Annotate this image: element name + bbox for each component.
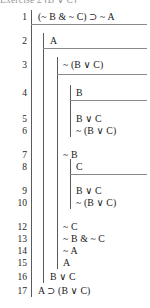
proof-line-formula: B ∨ C — [76, 186, 102, 196]
proof-line-formula: A — [63, 258, 70, 268]
proof-line-formula: ~ C — [63, 222, 78, 232]
proof-line-formula: B — [76, 88, 83, 98]
proof-line-formula: B ∨ C — [76, 114, 102, 124]
proof-line-formula: ~ (B ∨ C) — [63, 60, 103, 70]
rule-under-line-8 — [70, 174, 147, 175]
scope-bar-assumption-notBvC-scope — [57, 57, 58, 269]
line-number: 7 — [0, 150, 27, 160]
scope-bar-outer-premise-scope — [31, 10, 32, 297]
rule-under-line-2 — [43, 48, 147, 49]
proof-line-formula: ~ (B ∨ C) — [76, 126, 116, 136]
fitch-proof: Exercise 2 (B ∨ C) 123456789101213141516… — [0, 0, 150, 308]
rule-under-line-3 — [57, 74, 147, 75]
line-number: 14 — [0, 246, 27, 256]
line-number: 5 — [0, 114, 27, 124]
proof-line-formula: A ⊃ (B ∨ C) — [38, 286, 90, 296]
line-number: 9 — [0, 186, 27, 196]
line-number: 16 — [0, 272, 27, 282]
line-number: 6 — [0, 126, 27, 136]
line-number: 3 — [0, 60, 27, 70]
proof-line-formula: ~ B — [63, 150, 78, 160]
line-number: 10 — [0, 198, 27, 208]
line-number: 1 — [0, 12, 27, 22]
line-number: 2 — [0, 36, 27, 46]
line-number: 8 — [0, 162, 27, 172]
proof-line-formula: B ∨ C — [50, 272, 76, 282]
scope-bar-assumption-C-scope — [70, 159, 71, 209]
rule-under-line-1 — [31, 24, 147, 25]
proof-line-formula: ~ (B ∨ C) — [76, 198, 116, 208]
line-number: 13 — [0, 234, 27, 244]
clipped-caption-text: Exercise 2 (B ∨ C) — [0, 0, 150, 3]
rule-under-line-4 — [70, 100, 147, 101]
line-number: 12 — [0, 222, 27, 232]
scope-bar-assumption-A-scope — [43, 33, 44, 283]
line-number: 4 — [0, 88, 27, 98]
line-number: 17 — [0, 286, 27, 296]
line-number: 15 — [0, 258, 27, 268]
proof-line-formula: ~ B & ~ C — [63, 234, 105, 244]
proof-line-formula: A — [50, 36, 57, 46]
scope-bar-assumption-B-scope — [70, 85, 71, 137]
proof-line-formula: C — [76, 162, 83, 172]
proof-line-formula: (~ B & ~ C) ⊃ ~ A — [38, 12, 115, 22]
proof-line-formula: ~ A — [63, 246, 78, 256]
